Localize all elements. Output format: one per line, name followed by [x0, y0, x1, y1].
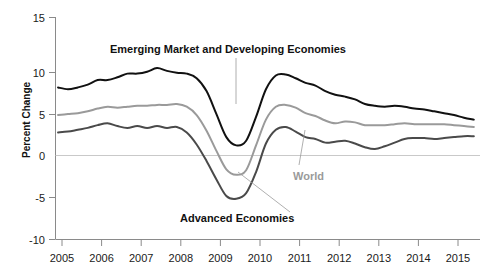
series-group: [58, 68, 474, 199]
annotation-emde-label: Emerging Market and Developing Economies: [110, 43, 346, 55]
x-tick-label-2006: 2006: [89, 252, 113, 264]
x-tick-label-2005: 2005: [50, 252, 74, 264]
x-tick-label-2009: 2009: [208, 252, 232, 264]
chart-container: Percent Change 15 10 5 0 -5 -10 20052006…: [0, 0, 487, 279]
y-tick-10: 10: [33, 67, 45, 79]
y-tick-minus5: -5: [35, 192, 45, 204]
x-tick-label-2014: 2014: [406, 252, 430, 264]
line-chart: Percent Change 15 10 5 0 -5 -10 20052006…: [0, 0, 487, 279]
x-tick-label-2007: 2007: [129, 252, 153, 264]
y-tick-5: 5: [39, 109, 45, 121]
y-tick-15: 15: [33, 12, 45, 24]
x-tick-label-2011: 2011: [288, 252, 312, 264]
series-line-world: [58, 104, 474, 175]
x-tick-label-2013: 2013: [367, 252, 391, 264]
annotation-world-label: World: [293, 170, 324, 182]
annotation-advanced-label: Advanced Economies: [180, 212, 294, 224]
x-tick-label-2012: 2012: [327, 252, 351, 264]
y-axis-title: Percent Change: [21, 81, 32, 158]
y-tick-minus10: -10: [29, 234, 45, 246]
series-line-advanced-economies: [58, 123, 474, 199]
x-axis-tick-labels: 2005200620072008200920102011201220132014…: [50, 252, 470, 264]
x-tick-label-2010: 2010: [248, 252, 272, 264]
x-tick-label-2015: 2015: [446, 252, 470, 264]
y-axis-ticks: [49, 18, 56, 240]
x-axis-ticks: [62, 240, 458, 247]
y-tick-0: 0: [39, 150, 45, 162]
x-tick-label-2008: 2008: [169, 252, 193, 264]
